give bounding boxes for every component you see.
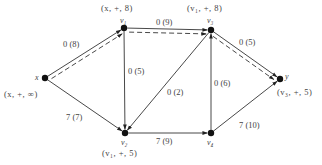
augmenting-path-v1-v3 bbox=[129, 32, 206, 34]
edge-label-v1-v2: 0 (5) bbox=[128, 67, 144, 76]
node-name-v4: v₄ bbox=[207, 139, 213, 147]
node-name-y: y bbox=[285, 73, 289, 81]
edge-v3-v2 bbox=[127, 32, 209, 130]
edge-x-v1 bbox=[48, 30, 121, 76]
node-name-v3: v₃ bbox=[207, 17, 213, 25]
edge-v1-v2 bbox=[124, 31, 125, 129]
node-v3 bbox=[208, 27, 214, 33]
node-label-v3: (v₁, +, 8) bbox=[187, 4, 222, 13]
node-label-x: (x, +, ∞) bbox=[4, 90, 38, 99]
node-v4 bbox=[208, 130, 214, 136]
node-label-y: (v₃, +, 5) bbox=[277, 88, 312, 97]
edge-label-x-v1: 0 (8) bbox=[63, 40, 79, 49]
edge-label-v4-y: 7 (10) bbox=[239, 121, 260, 130]
edge-label-v3-y: 0 (5) bbox=[239, 38, 255, 47]
node-label-v2: (v₁, +, 5) bbox=[102, 149, 137, 158]
node-name-x: x bbox=[35, 74, 39, 82]
edge-x-v2 bbox=[48, 80, 122, 131]
node-v2 bbox=[122, 130, 128, 136]
edge-label-v1-v3: 0 (9) bbox=[156, 18, 172, 27]
node-y bbox=[277, 76, 283, 82]
edge-label-x-v2: 7 (7) bbox=[66, 113, 82, 122]
node-x bbox=[42, 75, 48, 81]
edge-v1-v3 bbox=[127, 28, 207, 30]
node-label-v1: (x, +, 8) bbox=[101, 4, 133, 13]
node-v1 bbox=[121, 25, 127, 31]
node-name-v2: v₂ bbox=[121, 139, 127, 147]
node-name-v1: v₁ bbox=[120, 17, 126, 25]
edge-label-v3-v2: 0 (2) bbox=[167, 88, 183, 97]
edge-label-v2-v4: 7 (9) bbox=[156, 137, 172, 146]
edge-label-v4-v3: 0 (6) bbox=[214, 79, 230, 88]
